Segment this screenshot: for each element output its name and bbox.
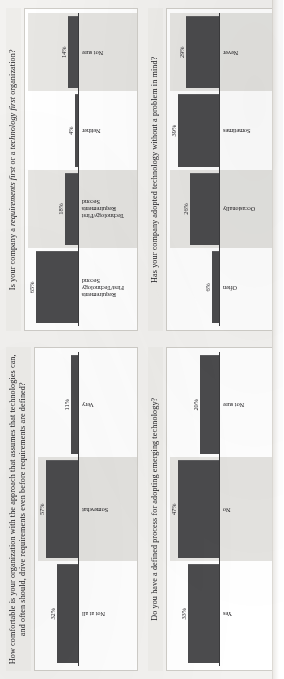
- bar-slot: 33%: [170, 562, 220, 667]
- category-tick: Not sure: [220, 353, 278, 458]
- chart-plot-area: 65%18%4%14% Requirements First/Technolog…: [24, 8, 138, 332]
- bar: [186, 16, 219, 88]
- bar-value-label: 65%: [28, 281, 35, 293]
- bar-value-label: 26%: [182, 203, 189, 215]
- category-label: Not at all: [82, 610, 105, 617]
- category-tick: Sometimes: [220, 91, 278, 169]
- category-tick: Technology/First Requirements Second: [79, 170, 137, 248]
- category-tick: Requirements First/Technology Second: [79, 248, 137, 326]
- chart-plot-area: 6%26%39%29% OftenOccasionallySometimesNe…: [166, 8, 280, 332]
- chart-card-comfort-technology-drives-requirements: How comfortable is your organization wit…: [0, 340, 142, 679]
- chart-category-labels: Requirements First/Technology SecondTech…: [79, 9, 137, 331]
- category-tick: Neither: [79, 91, 137, 169]
- bar-value-label: 33%: [180, 608, 187, 620]
- bar-slot: 14%: [28, 13, 78, 91]
- bar-value-label: 20%: [192, 399, 199, 411]
- category-label: No: [223, 506, 231, 513]
- bar-value-label: 39%: [170, 125, 177, 137]
- category-label: Requirements First/Technology Second: [82, 277, 135, 298]
- bar-slot: 6%: [170, 248, 220, 326]
- category-tick: Not sure: [79, 13, 137, 91]
- bar-slot: 26%: [170, 170, 220, 248]
- bar-value-label: 6%: [204, 283, 211, 292]
- bar: [178, 460, 220, 559]
- chart-title: Is your company a requirements first or …: [6, 8, 21, 332]
- chart-plot-area: 32%57%11% Not at allSomewhatVery: [34, 348, 138, 672]
- title-text: organization?: [8, 49, 17, 97]
- category-tick: Not at all: [79, 562, 137, 667]
- bar: [212, 251, 219, 323]
- bar: [190, 173, 219, 245]
- category-tick: No: [220, 457, 278, 562]
- category-label: Yes: [223, 610, 232, 617]
- category-tick: Occasionally: [220, 170, 278, 248]
- chart-title: Do you have a defined process for adopti…: [148, 348, 163, 672]
- bar-value-label: 4%: [67, 126, 74, 135]
- bar: [65, 173, 78, 245]
- category-tick: Often: [220, 248, 278, 326]
- category-tick: Yes: [220, 562, 278, 667]
- category-label: Very: [82, 401, 94, 408]
- category-label: Not sure: [82, 49, 103, 56]
- chart-category-labels: OftenOccasionallySometimesNever: [220, 9, 278, 331]
- title-text: Do you have a defined process for adopti…: [150, 398, 159, 621]
- category-label: Somewhat: [82, 506, 108, 513]
- category-label: Technology/First Requirements Second: [82, 199, 135, 220]
- chart-category-labels: Not at allSomewhatVery: [79, 349, 137, 671]
- category-label: Occasionally: [223, 205, 255, 212]
- bar: [200, 356, 219, 455]
- chart-card-defined-process-adopting-emerging-technology: Do you have a defined process for adopti…: [142, 340, 284, 679]
- chart-plot-area: 33%47%20% YesNoNot sure: [166, 348, 280, 672]
- bar: [178, 94, 220, 166]
- bar-slot: 11%: [38, 353, 78, 458]
- bar: [57, 565, 77, 664]
- title-text: How comfortable is your organization wit…: [8, 354, 27, 664]
- bar-value-label: 57%: [38, 503, 45, 515]
- category-label: Never: [223, 49, 238, 56]
- bar-value-label: 32%: [49, 608, 56, 620]
- category-tick: Very: [79, 353, 137, 458]
- bar-slot: 65%: [28, 248, 78, 326]
- title-text: or a: [8, 149, 17, 166]
- scanned-page-rotation-wrapper: How comfortable is your organization wit…: [0, 0, 283, 679]
- chart-title: Has your company adopted technology with…: [148, 8, 163, 332]
- bar-value-label: 11%: [63, 399, 70, 410]
- chart-title: How comfortable is your organization wit…: [6, 348, 31, 672]
- title-emphasis: technology first: [8, 97, 17, 149]
- chart-bars: 32%57%11%: [35, 349, 78, 671]
- category-label: Sometimes: [223, 127, 251, 134]
- chart-bars: 6%26%39%29%: [167, 9, 220, 331]
- category-label: Neither: [82, 127, 101, 134]
- title-text: Is your company a: [8, 226, 17, 290]
- chart-card-adopted-technology-without-problem-in-mind: Has your company adopted technology with…: [142, 0, 284, 340]
- bar: [46, 460, 78, 559]
- bar-slot: 29%: [170, 13, 220, 91]
- bar-slot: 47%: [170, 457, 220, 562]
- chart-row-top: How comfortable is your organization wit…: [0, 0, 142, 679]
- chart-category-labels: YesNoNot sure: [220, 349, 278, 671]
- bar-slot: 57%: [38, 457, 78, 562]
- bar-slot: 4%: [28, 91, 78, 169]
- document-page: How comfortable is your organization wit…: [0, 0, 283, 679]
- bar-slot: 39%: [170, 91, 220, 169]
- bar: [36, 251, 78, 323]
- bar-value-label: 29%: [178, 46, 185, 58]
- category-label: Not sure: [223, 401, 244, 408]
- bar: [71, 356, 78, 455]
- bar: [188, 565, 219, 664]
- chart-bars: 65%18%4%14%: [25, 9, 78, 331]
- category-label: Often: [223, 284, 237, 291]
- chart-card-requirements-first-or-technology-first: Is your company a requirements first or …: [0, 0, 142, 340]
- bar-slot: 20%: [170, 353, 220, 458]
- category-tick: Somewhat: [79, 457, 137, 562]
- bar-slot: 18%: [28, 170, 78, 248]
- bar-slot: 32%: [38, 562, 78, 667]
- bar-value-label: 18%: [57, 203, 64, 215]
- chart-row-bottom: Do you have a defined process for adopti…: [142, 0, 284, 679]
- bar-value-label: 47%: [170, 503, 177, 515]
- title-emphasis: requirements first: [8, 167, 17, 226]
- title-text: Has your company adopted technology with…: [150, 57, 159, 283]
- bar-value-label: 14%: [60, 46, 67, 58]
- bar: [68, 16, 78, 88]
- category-tick: Never: [220, 13, 278, 91]
